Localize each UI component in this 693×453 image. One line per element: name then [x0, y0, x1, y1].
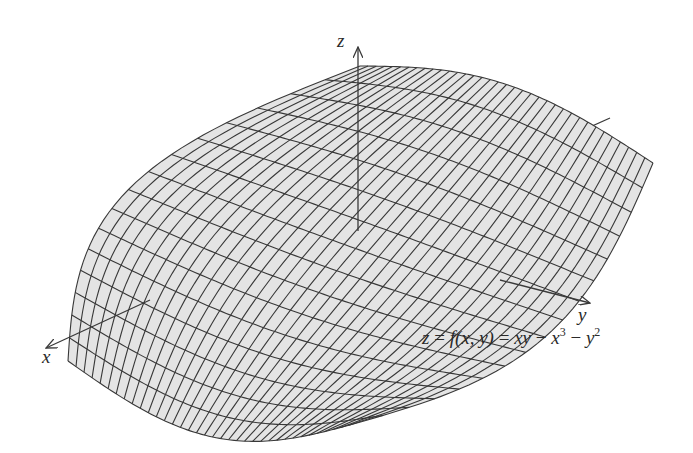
eq-term-xy: xy [514, 327, 531, 348]
eq-equals-1: = [429, 327, 449, 348]
surface-mesh [68, 66, 653, 441]
surface-plot-figure: z x y z = f(x, y) = xy − x3 − y2 [0, 0, 693, 453]
eq-minus-1: − [531, 327, 551, 348]
x-axis-label: x [42, 346, 50, 368]
function-equation: z = f(x, y) = xy − x3 − y2 [422, 327, 600, 349]
surface-plot-canvas [0, 0, 693, 453]
y-axis-label: y [578, 304, 586, 326]
eq-exp-2: 2 [594, 325, 600, 339]
z-axis-label: z [337, 30, 344, 52]
eq-args: (x, y) [455, 327, 494, 348]
eq-minus-2: − [566, 327, 586, 348]
eq-term-x: x [551, 327, 559, 348]
eq-equals-2: = [494, 327, 514, 348]
